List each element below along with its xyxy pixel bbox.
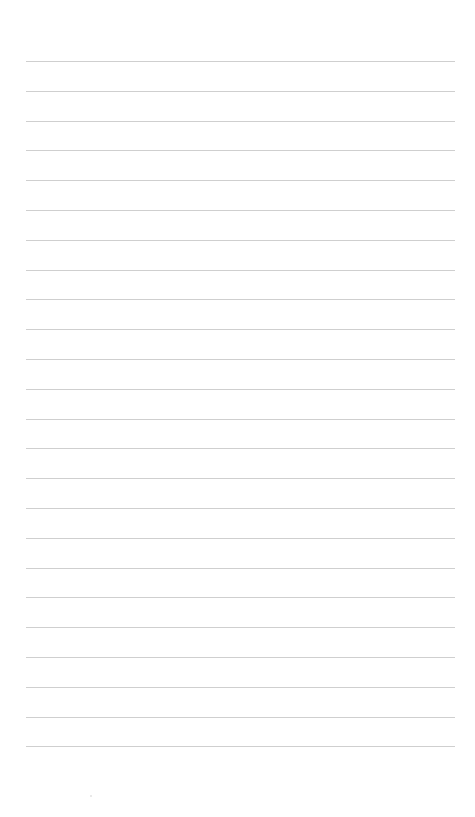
ruled-line (26, 597, 455, 598)
ruled-line (26, 121, 455, 122)
ruled-line (26, 61, 455, 62)
ruled-line (26, 91, 455, 92)
ruled-line (26, 717, 455, 718)
lined-paper-page (0, 0, 475, 817)
ruled-line (26, 687, 455, 688)
ruled-line (26, 299, 455, 300)
paper-speck (90, 795, 92, 797)
ruled-line (26, 210, 455, 211)
ruled-line (26, 389, 455, 390)
ruled-line (26, 657, 455, 658)
ruled-line (26, 627, 455, 628)
ruled-line (26, 180, 455, 181)
ruled-line (26, 359, 455, 360)
ruled-line (26, 448, 455, 449)
ruled-line (26, 568, 455, 569)
ruled-line (26, 240, 455, 241)
ruled-line (26, 508, 455, 509)
ruled-line (26, 150, 455, 151)
ruled-line (26, 746, 455, 747)
ruled-line (26, 419, 455, 420)
ruled-line (26, 538, 455, 539)
ruled-line (26, 329, 455, 330)
ruled-line (26, 478, 455, 479)
ruled-line (26, 270, 455, 271)
